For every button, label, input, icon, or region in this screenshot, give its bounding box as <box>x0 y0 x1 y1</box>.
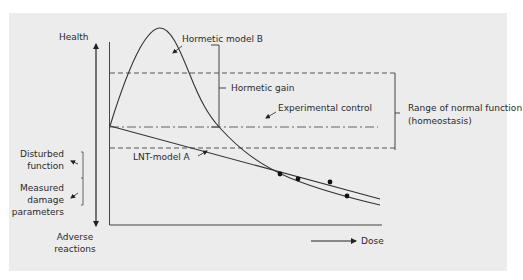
normal-range-bracket <box>395 73 400 150</box>
normal-range-label-line1: Range of normal function <box>408 103 522 113</box>
disturbed-label-line1: Disturbed <box>20 149 64 159</box>
measured-label-line3: parameters <box>12 207 65 217</box>
adverse-label-line2: reactions <box>54 244 96 254</box>
disturbed-label-line2: function <box>27 161 64 171</box>
normal-range-label-line2: (homeostasis) <box>408 116 472 126</box>
data-point <box>328 180 333 185</box>
lnt-model-a-line <box>110 126 380 199</box>
hormetic-gain-label: Hormetic gain <box>231 83 294 93</box>
data-point <box>278 172 283 177</box>
dose-response-diagram: Health Hormetic model B Hormetic gain Ex… <box>0 0 523 280</box>
lnt-model-a-label: LNT-model A <box>133 152 191 162</box>
adverse-label-line1: Adverse <box>57 232 94 242</box>
dose-label: Dose <box>361 236 384 246</box>
measured-pointer-icon <box>71 193 78 198</box>
data-point <box>296 177 301 182</box>
lnt-label-pointer-icon <box>198 151 207 156</box>
health-label: Health <box>59 32 89 42</box>
hormetic-model-b-curve <box>110 28 380 205</box>
measured-label-line2: damage <box>27 195 64 205</box>
measured-label-line1: Measured <box>20 183 64 193</box>
hormetic-gain-bracket <box>211 45 226 127</box>
disturbed-function-bracket <box>81 152 83 205</box>
data-point <box>345 194 350 199</box>
control-label-pointer-icon <box>266 112 276 118</box>
experimental-control-label: Experimental control <box>278 103 372 113</box>
disturbed-pointer-icon <box>71 161 78 164</box>
hormetic-model-b-label: Hormetic model B <box>182 34 263 44</box>
